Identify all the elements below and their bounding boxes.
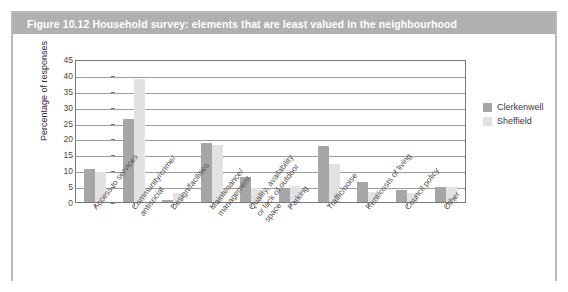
y-axis-tick-label: 45 — [53, 55, 73, 65]
y-axis-tick-label: 35 — [53, 87, 73, 97]
bar-clerkenwell[interactable] — [357, 182, 368, 202]
bar-clerkenwell[interactable] — [84, 169, 95, 202]
chart-area: Percentage of responses 0510152025303540… — [13, 34, 555, 281]
y-axis-tick-label: 40 — [53, 71, 73, 81]
y-axis-tick-label: 25 — [53, 119, 73, 129]
legend-label: Sheffield — [497, 116, 532, 126]
y-axis-tick-label: 30 — [53, 103, 73, 113]
legend-label: Clerkenwell — [497, 102, 544, 112]
y-axis-tick-label: 10 — [53, 166, 73, 176]
y-axis-tick-label: 0 — [53, 198, 73, 208]
bar-clerkenwell[interactable] — [435, 187, 446, 202]
legend-swatch — [483, 117, 492, 126]
y-axis-tick-label: 5 — [53, 182, 73, 192]
y-axis-tick-labels: 051015202530354045 — [53, 60, 73, 203]
figure-frame: Figure 10.12 Household survey: elements … — [11, 11, 557, 281]
chart-legend: ClerkenwellSheffield — [483, 102, 555, 130]
bar-clerkenwell[interactable] — [318, 146, 329, 202]
legend-item[interactable]: Clerkenwell — [483, 102, 555, 112]
figure-title-bar: Figure 10.12 Household survey: elements … — [13, 13, 555, 34]
y-axis-tick-label: 15 — [53, 150, 73, 160]
bar-clerkenwell[interactable] — [396, 190, 407, 202]
legend-item[interactable]: Sheffield — [483, 116, 555, 126]
legend-swatch — [483, 103, 492, 112]
bar-group — [309, 61, 348, 202]
x-axis-tick-labels: Access to servicesCommunity/crime/ antis… — [75, 204, 466, 280]
bar-sheffield[interactable] — [134, 79, 145, 202]
y-axis-title: Percentage of responses — [39, 31, 49, 151]
y-axis-tick-label: 20 — [53, 134, 73, 144]
figure-title: Figure 10.12 Household survey: elements … — [13, 18, 457, 30]
